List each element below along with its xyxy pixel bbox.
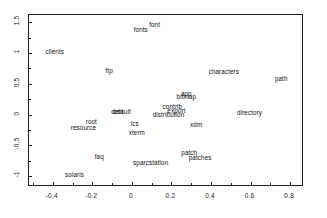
data-point-label: characters — [209, 69, 239, 75]
data-point-label: distribution — [153, 112, 185, 118]
y-tick-label: 1.5 — [13, 11, 20, 31]
y-minor-tick — [28, 38, 31, 39]
y-tick-label: 0 — [13, 103, 20, 123]
y-minor-tick — [28, 99, 31, 100]
x-minor-tick — [152, 183, 153, 186]
x-tick-label: -0.4 — [46, 192, 58, 199]
scatter-plot-figure: fontfontsclientsftpcharacterspathappbitm… — [0, 0, 327, 218]
data-point-label: faq — [95, 154, 104, 160]
data-point-label: directory — [237, 110, 262, 116]
data-point-label: sparcstation — [133, 160, 168, 166]
x-minor-tick — [191, 183, 192, 186]
y-tick-label: 1 — [13, 42, 20, 62]
y-tick-label: 0.5 — [13, 72, 20, 92]
x-tick — [132, 182, 133, 186]
x-tick-label: 0.4 — [205, 192, 215, 199]
y-tick — [28, 176, 32, 177]
data-point-label: font — [149, 22, 160, 28]
y-tick — [28, 53, 32, 54]
y-tick — [28, 115, 32, 116]
data-point-label: xdm — [190, 121, 202, 127]
x-minor-tick — [112, 183, 113, 186]
x-tick-label: 0.6 — [245, 192, 255, 199]
y-minor-tick — [28, 130, 31, 131]
data-point-label: solaris — [65, 172, 84, 178]
x-tick — [171, 182, 172, 186]
x-tick — [92, 182, 93, 186]
y-tick-label: -1 — [13, 164, 20, 184]
x-tick — [53, 182, 54, 186]
plot-area: fontfontsclientsftpcharacterspathappbitm… — [28, 14, 303, 186]
x-tick — [290, 182, 291, 186]
x-tick-label: 0.2 — [166, 192, 176, 199]
data-point-label: clients — [45, 49, 64, 55]
data-point-label: resource — [71, 125, 96, 131]
y-minor-tick — [28, 161, 31, 162]
data-point-label: ftp — [105, 67, 112, 73]
x-tick-label: 0 — [129, 192, 133, 199]
x-tick — [251, 182, 252, 186]
x-tick-label: 0.8 — [284, 192, 294, 199]
y-tick-label: -0.5 — [13, 134, 20, 154]
data-point-label: patches — [189, 155, 212, 161]
y-tick — [28, 145, 32, 146]
data-point-label: xterm — [129, 130, 145, 136]
data-point-label: lcs — [131, 121, 139, 127]
y-minor-tick — [28, 68, 31, 69]
y-tick — [28, 22, 32, 23]
x-minor-tick — [33, 183, 34, 186]
data-point-label: bitmap — [177, 94, 197, 100]
data-point-label: path — [275, 75, 288, 81]
x-minor-tick — [231, 183, 232, 186]
x-tick — [211, 182, 212, 186]
data-point-label: cad — [113, 109, 123, 115]
x-tick-label: -0.2 — [85, 192, 97, 199]
data-point-label: fonts — [134, 27, 148, 33]
x-minor-tick — [270, 183, 271, 186]
x-minor-tick — [73, 183, 74, 186]
y-tick — [28, 84, 32, 85]
